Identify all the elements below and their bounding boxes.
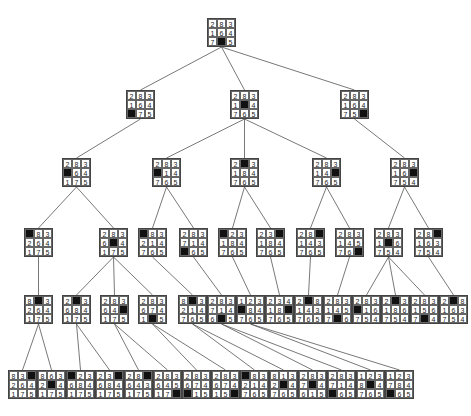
puzzle-tile: 6: [67, 380, 76, 389]
blank-tile: [449, 296, 458, 305]
puzzle-tile: 5: [226, 314, 235, 323]
blank-tile: [217, 314, 226, 323]
puzzle-tile: 4: [317, 380, 326, 389]
puzzle-tile: 4: [163, 380, 172, 389]
puzzle-tile: 1: [127, 100, 136, 109]
puzzle-tile: 7: [134, 389, 143, 398]
puzzle-state-node: 28364175: [99, 228, 128, 257]
tree-edge: [405, 187, 429, 228]
puzzle-tile: 2: [125, 371, 134, 380]
puzzle-tile: 2: [212, 371, 221, 380]
puzzle-tile: 8: [148, 296, 157, 305]
puzzle-tile: 1: [212, 389, 221, 398]
puzzle-tile: 8: [420, 296, 429, 305]
puzzle-tile: 4: [157, 238, 166, 247]
puzzle-state-node: 83264175: [8, 370, 37, 399]
puzzle-tile: 1: [341, 100, 350, 109]
tree-edge: [311, 187, 327, 228]
puzzle-tile: 7: [336, 247, 345, 256]
puzzle-tile: 2: [76, 371, 85, 380]
puzzle-tile: 2: [411, 296, 420, 305]
puzzle-tile: 1: [96, 389, 105, 398]
puzzle-tile: 8: [384, 229, 393, 238]
puzzle-tile: 5: [331, 177, 340, 186]
puzzle-tile: 3: [201, 371, 210, 380]
puzzle-state-node: 28367415: [138, 295, 167, 324]
puzzle-tile: 1: [154, 389, 163, 398]
puzzle-state-node: 28163754: [414, 228, 443, 257]
puzzle-tile: 3: [118, 229, 127, 238]
puzzle-tile: 4: [27, 380, 36, 389]
puzzle-tile: 3: [198, 229, 207, 238]
puzzle-tile: 8: [350, 91, 359, 100]
puzzle-tile: 8: [275, 305, 284, 314]
puzzle-tile: 6: [400, 305, 409, 314]
puzzle-tile: 4: [433, 247, 442, 256]
puzzle-tile: 6: [96, 380, 105, 389]
puzzle-tile: 8: [217, 19, 226, 28]
puzzle-tile: 8: [34, 229, 43, 238]
puzzle-tile: 4: [171, 168, 180, 177]
puzzle-tile: 7: [192, 380, 201, 389]
puzzle-state-node: 28364517: [153, 370, 182, 399]
puzzle-tile: 5: [198, 247, 207, 256]
blank-tile: [409, 168, 418, 177]
puzzle-tile: 3: [105, 371, 114, 380]
puzzle-tile: 2: [295, 296, 304, 305]
blank-tile: [241, 371, 250, 380]
puzzle-state-node: 23184765: [256, 228, 285, 257]
puzzle-tile: 7: [295, 314, 304, 323]
puzzle-tile: 4: [134, 380, 143, 389]
puzzle-tile: 3: [255, 296, 264, 305]
puzzle-tile: 1: [192, 389, 201, 398]
puzzle-tile: 8: [136, 91, 145, 100]
puzzle-tile: 4: [333, 305, 342, 314]
puzzle-tile: 4: [375, 380, 384, 389]
puzzle-tile: 8: [362, 296, 371, 305]
puzzle-tile: 6: [34, 305, 43, 314]
puzzle-tile: 5: [449, 314, 458, 323]
puzzle-tile: 4: [145, 100, 154, 109]
puzzle-tile: 7: [382, 314, 391, 323]
puzzle-state-node: 28316754: [352, 295, 381, 324]
puzzle-tile: 3: [429, 296, 438, 305]
puzzle-tile: 3: [18, 371, 27, 380]
tree-edge: [193, 324, 255, 370]
tree-edge: [141, 47, 222, 90]
puzzle-tile: 3: [249, 159, 258, 168]
puzzle-state-node: 83214765: [240, 370, 269, 399]
puzzle-tile: 2: [313, 159, 322, 168]
puzzle-tile: 8: [228, 238, 237, 247]
puzzle-state-node: 28364175: [62, 158, 91, 187]
puzzle-tile: 4: [255, 305, 264, 314]
puzzle-tile: 7: [18, 389, 27, 398]
puzzle-tile: 8: [345, 229, 354, 238]
puzzle-tile: 7: [391, 177, 400, 186]
puzzle-tile: 3: [56, 371, 65, 380]
puzzle-tile: 1: [100, 247, 109, 256]
puzzle-tile: 8: [72, 305, 81, 314]
puzzle-tile: 2: [299, 371, 308, 380]
puzzle-tile: 2: [208, 19, 217, 28]
tree-edge: [167, 187, 194, 228]
tree-edge: [194, 257, 222, 295]
puzzle-tile: 6: [136, 100, 145, 109]
puzzle-tile: 6: [366, 389, 375, 398]
puzzle-state-node: 23184765: [218, 228, 247, 257]
puzzle-tile: 4: [404, 380, 413, 389]
puzzle-tile: 3: [81, 296, 90, 305]
puzzle-tile: 5: [288, 389, 297, 398]
puzzle-tile: 3: [43, 229, 52, 238]
puzzle-tile: 2: [154, 371, 163, 380]
blank-tile: [420, 314, 429, 323]
puzzle-tile: 5: [237, 247, 246, 256]
puzzle-tile: 2: [139, 238, 148, 247]
puzzle-tile: 2: [101, 296, 110, 305]
puzzle-tile: 4: [197, 305, 206, 314]
puzzle-tile: 2: [139, 296, 148, 305]
tree-edge: [77, 324, 81, 370]
puzzle-tile: 3: [249, 91, 258, 100]
blank-tile: [47, 380, 56, 389]
puzzle-tile: 4: [226, 28, 235, 37]
puzzle-tile: 6: [72, 168, 81, 177]
